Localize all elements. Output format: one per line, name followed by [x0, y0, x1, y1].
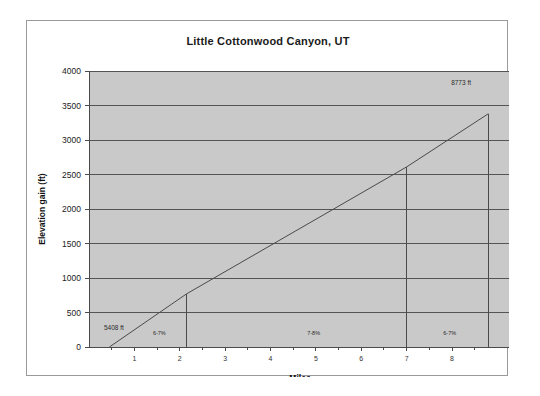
grade-segment-1: 6-7%	[153, 330, 166, 336]
y-axis-ticks: 05001000150020002500300035004000	[62, 66, 89, 352]
y-tick-label: 4000	[62, 66, 81, 76]
y-tick-label: 1500	[62, 239, 81, 249]
x-tick-label: 1	[132, 355, 136, 362]
y-tick-label: 3000	[62, 135, 81, 145]
x-tick-label: 3	[223, 355, 227, 362]
x-tick-label: 5	[314, 355, 318, 362]
x-axis-title: Miles	[289, 373, 311, 377]
x-axis-ticks: 12345678	[112, 347, 475, 362]
grade-segment-3: 6-7%	[443, 330, 456, 336]
y-tick-label: 2000	[62, 204, 81, 214]
y-axis-title: Elevation gain (ft)	[37, 173, 47, 244]
grade-segment-2: 7-8%	[307, 330, 320, 336]
y-tick-label: 0	[76, 342, 81, 352]
chart-frame: Little Cottonwood Canyon, UT 05001000150…	[26, 20, 508, 376]
elevation-profile-chart: 05001000150020002500300035004000 1234567…	[27, 21, 509, 377]
y-tick-label: 500	[67, 308, 81, 318]
x-tick-label: 2	[178, 355, 182, 362]
y-tick-label: 3500	[62, 101, 81, 111]
x-tick-label: 7	[405, 355, 409, 362]
y-tick-label: 2500	[62, 170, 81, 180]
x-tick-label: 4	[269, 355, 273, 362]
end-elevation: 8773 ft	[451, 79, 471, 86]
x-tick-label: 6	[359, 355, 363, 362]
plot-container: 05001000150020002500300035004000 1234567…	[27, 21, 509, 377]
start-elevation: 5408 ft	[104, 324, 124, 331]
y-tick-label: 1000	[62, 273, 81, 283]
x-tick-label: 8	[450, 355, 454, 362]
